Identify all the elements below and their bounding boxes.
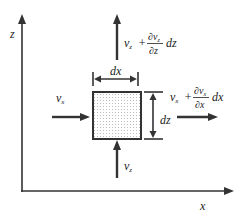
inflow-z-arrow	[113, 140, 121, 178]
svg-text:+: +	[184, 90, 192, 104]
svg-text:∂z: ∂z	[149, 45, 158, 56]
control-volume-diagram: z x dx dz vz + ∂vz ∂z dz	[0, 0, 243, 219]
outflow-z-arrowhead-icon	[113, 14, 121, 24]
x-axis-arrowhead-icon	[224, 187, 234, 195]
control-volume-box	[93, 92, 141, 139]
z-axis-arrowhead-icon	[18, 14, 26, 24]
svg-text:dz: dz	[166, 36, 177, 50]
outflow-z-label: vz + ∂vz ∂z dz	[124, 31, 177, 56]
z-axis-label: z	[9, 27, 15, 41]
svg-text:∂x: ∂x	[195, 99, 205, 110]
inflow-z-arrowhead-icon	[113, 140, 121, 150]
outflow-x-arrow	[177, 113, 218, 121]
outflow-z-arrow	[113, 14, 121, 60]
outflow-x-arrowhead-icon	[208, 113, 218, 121]
inflow-x-arrowhead-icon	[80, 113, 90, 121]
x-axis-label: x	[199, 199, 206, 213]
x-axis	[21, 187, 234, 195]
dz-bottom-arrowhead-icon	[150, 131, 157, 138]
inflow-x-label: vx	[56, 91, 65, 106]
dz-label: dz	[160, 113, 171, 127]
inflow-x-arrow	[52, 113, 90, 121]
dx-label: dx	[110, 64, 122, 78]
z-axis	[18, 14, 26, 192]
svg-text:vz: vz	[124, 36, 132, 51]
dx-right-arrowhead-icon	[130, 76, 137, 83]
dz-top-arrowhead-icon	[150, 93, 157, 100]
svg-text:∂vz: ∂vz	[148, 31, 160, 43]
svg-text:vx: vx	[170, 90, 179, 105]
inflow-z-label: vz	[124, 159, 132, 174]
outflow-x-label: vx + ∂vx ∂x dx	[170, 85, 224, 110]
svg-text:∂vx: ∂vx	[194, 85, 206, 97]
dx-left-arrowhead-icon	[94, 76, 101, 83]
svg-text:+: +	[138, 36, 146, 50]
svg-text:dx: dx	[212, 90, 224, 104]
